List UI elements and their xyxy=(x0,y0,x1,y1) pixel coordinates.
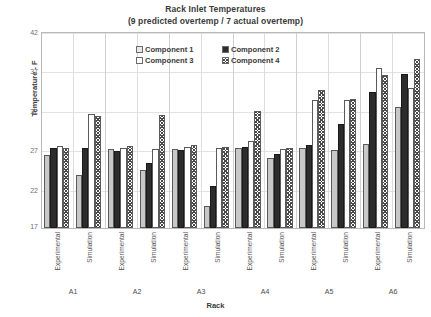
legend-label-component-1: Component 1 xyxy=(145,45,194,54)
x-axis-title: Rack xyxy=(0,301,431,310)
x-tick-cell: Simulation xyxy=(201,230,233,286)
x-tick-label: Simulation xyxy=(214,232,221,263)
x-tick-label: Simulation xyxy=(342,232,349,263)
rack-group-label: A6 xyxy=(361,288,425,300)
chart-subtitle: (9 predicted overtemp / 7 actual overtem… xyxy=(0,15,431,27)
y-tick-label: 32 xyxy=(8,108,38,115)
bar-component-4 xyxy=(350,99,356,228)
bar-cluster xyxy=(363,33,390,228)
y-tick-label: 37 xyxy=(8,68,38,75)
bar-component-4 xyxy=(318,90,324,228)
x-tick-cell: Experimental xyxy=(169,230,201,286)
bar-subgroup xyxy=(74,33,106,228)
rack-group-label: A3 xyxy=(169,288,233,300)
bar-cluster xyxy=(44,33,71,228)
bar-cluster xyxy=(76,33,103,228)
rack-group-label: A1 xyxy=(41,288,105,300)
legend-swatch-component-4-icon xyxy=(222,57,229,64)
x-tick-label: Experimental xyxy=(374,232,381,270)
page-title: Rack Inlet Temperatures xyxy=(0,4,431,15)
y-tick-label: 17 xyxy=(8,223,38,230)
y-tick-label: 27 xyxy=(8,147,38,154)
bar-component-4 xyxy=(63,148,69,228)
x-tick-cell: Simulation xyxy=(393,230,425,286)
x-tick-label: Simulation xyxy=(278,232,285,263)
y-tick-label: 42 xyxy=(8,29,38,36)
bar-cluster xyxy=(108,33,135,228)
x-tick-cell: Simulation xyxy=(137,230,169,286)
bar-component-4 xyxy=(254,111,260,228)
x-tick-cell: Experimental xyxy=(297,230,329,286)
bar-subgroup xyxy=(361,33,393,228)
x-tick-cell: Simulation xyxy=(73,230,105,286)
bar-subgroup xyxy=(106,33,138,228)
bar-component-4 xyxy=(95,116,101,228)
x-tick-cell: Experimental xyxy=(233,230,265,286)
x-tick-label: Experimental xyxy=(310,232,317,270)
x-tick-cell: Simulation xyxy=(329,230,361,286)
bar-component-4 xyxy=(191,145,197,228)
x-tick-cell: Experimental xyxy=(105,230,137,286)
bar-component-4 xyxy=(159,115,165,228)
rack-group-label: A2 xyxy=(105,288,169,300)
x-tick-label: Simulation xyxy=(86,232,93,263)
y-tick-label: 22 xyxy=(8,187,38,194)
legend-label-component-2: Component 2 xyxy=(231,45,280,54)
x-axis-condition-labels: ExperimentalSimulationExperimentalSimula… xyxy=(41,230,425,286)
rack-group-label: A4 xyxy=(233,288,297,300)
legend-item-component-4: Component 4 xyxy=(222,55,314,66)
legend-swatch-component-2-icon xyxy=(222,46,229,53)
bar-component-4 xyxy=(286,148,292,228)
legend-item-component-1: Component 1 xyxy=(136,44,220,55)
bar-component-4 xyxy=(382,75,388,228)
bar-subgroup xyxy=(393,33,424,228)
chart-container: Rack Inlet Temperatures (9 predicted ove… xyxy=(0,0,431,317)
x-tick-label: Experimental xyxy=(246,232,253,270)
bar-cluster xyxy=(331,33,358,228)
legend-item-component-3: Component 3 xyxy=(136,55,220,66)
legend: Component 1 Component 2 Component 3 Comp… xyxy=(136,44,314,66)
bar-cluster xyxy=(395,33,422,228)
legend-swatch-component-3-icon xyxy=(136,57,143,64)
bar-subgroup xyxy=(329,33,361,228)
bar-subgroup xyxy=(42,33,74,228)
x-tick-cell: Experimental xyxy=(361,230,393,286)
bar-component-4 xyxy=(222,147,228,228)
bar-component-4 xyxy=(127,146,133,228)
bar-component-4 xyxy=(414,59,420,228)
x-axis-rack-labels: A1A2A3A4A5A6 xyxy=(41,288,425,300)
x-tick-label: Simulation xyxy=(406,232,413,263)
rack-group-label: A5 xyxy=(297,288,361,300)
x-tick-cell: Experimental xyxy=(41,230,73,286)
x-tick-label: Simulation xyxy=(150,232,157,263)
x-tick-cell: Simulation xyxy=(265,230,297,286)
x-tick-label: Experimental xyxy=(182,232,189,270)
legend-label-component-3: Component 3 xyxy=(145,56,194,65)
x-tick-label: Experimental xyxy=(54,232,61,270)
legend-label-component-4: Component 4 xyxy=(231,56,280,65)
x-tick-label: Experimental xyxy=(118,232,125,270)
legend-item-component-2: Component 2 xyxy=(222,44,314,55)
chart-title-block: Rack Inlet Temperatures (9 predicted ove… xyxy=(0,4,431,27)
legend-swatch-component-1-icon xyxy=(136,46,143,53)
